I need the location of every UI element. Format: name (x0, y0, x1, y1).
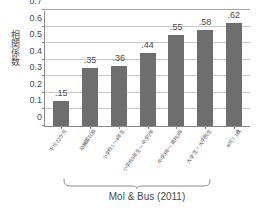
bar-value-label: .55 (170, 23, 183, 32)
plot-area: 0.70.60.50.40.30.20.10 .15.35.36.44.55.5… (44, 11, 250, 127)
y-tick-label: 0.3 (29, 63, 42, 72)
bar[interactable] (53, 101, 69, 126)
y-tick-label: 0.6 (29, 13, 42, 22)
bar[interactable] (140, 53, 156, 126)
bar-value-label: .62 (227, 11, 240, 20)
bar[interactable] (168, 35, 184, 126)
x-axis-category-label: 小学校5年生〜中学2年 (121, 128, 155, 173)
bar-value-label: .35 (84, 56, 97, 65)
y-tick-mark (42, 9, 45, 10)
x-axis-category-label: 平均7.1歳 (224, 128, 242, 149)
y-tick-label: 0.4 (29, 46, 42, 55)
x-axis-category-label: 平均22か月 (49, 128, 69, 152)
x-axis-labels-group: 平均22か月幼稚園以前小学校1〜4年生小学校5年生〜中学2年中学3年〜高校3年大… (44, 128, 250, 174)
gridline (45, 9, 250, 10)
bar-value-label: .15 (55, 89, 68, 98)
bar-slot: .58 (191, 11, 220, 126)
plot-wrapper: 0.70.60.50.40.30.20.10 .15.35.36.44.55.5… (44, 11, 250, 127)
bar-value-label: .58 (199, 18, 212, 27)
bar-slot: .44 (133, 11, 162, 126)
bar-slot: .36 (104, 11, 133, 126)
bar[interactable] (82, 68, 98, 126)
x-axis-category-label: 小学校1〜4年生 (101, 128, 126, 161)
category-bracket (63, 178, 211, 189)
bar-value-label: .36 (113, 54, 126, 63)
y-tick-label: 0.2 (29, 79, 42, 88)
bars-group: .15.35.36.44.55.58.62 (45, 11, 250, 126)
bar-slot: .35 (76, 11, 105, 126)
y-tick-label: 0.7 (29, 0, 42, 6)
y-axis-title: 相関係数 (6, 30, 20, 66)
chart-figure: 相関係数 0.70.60.50.40.30.20.10 .15.35.36.44… (0, 0, 258, 216)
y-tick-label: 0.1 (29, 96, 42, 105)
bar-slot: .55 (162, 11, 191, 126)
x-axis-category-label: 中学3年〜高校3年 (156, 128, 184, 165)
y-tick-label: 0.5 (29, 30, 42, 39)
bar-slot: .15 (47, 11, 76, 126)
x-axis-category-label: 幼稚園以前 (78, 128, 97, 152)
bar[interactable] (226, 23, 242, 126)
bar-slot: .62 (219, 11, 248, 126)
y-tick-label: 0 (37, 113, 42, 122)
bar-value-label: .44 (141, 41, 154, 50)
bracket-caption: Mol & Bus (2011) (44, 191, 250, 203)
bar[interactable] (197, 30, 213, 126)
x-axis-category-label: 大学生・大学院生 (185, 128, 213, 164)
bar[interactable] (111, 66, 127, 126)
